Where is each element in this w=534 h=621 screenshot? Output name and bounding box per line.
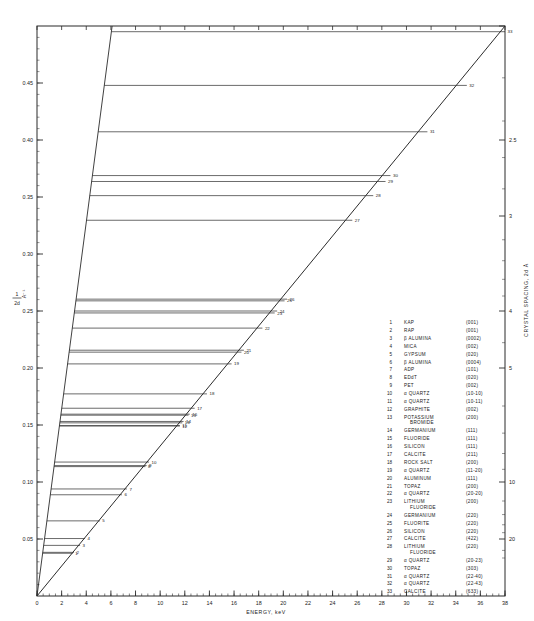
- svg-text:(11-20): (11-20): [466, 468, 483, 473]
- svg-text:2d: 2d: [14, 300, 20, 306]
- svg-text:FLUORIDE: FLUORIDE: [410, 505, 436, 510]
- svg-text:12: 12: [182, 600, 188, 606]
- svg-text:(200): (200): [466, 499, 478, 504]
- svg-text:18: 18: [256, 600, 262, 606]
- svg-text:(200): (200): [466, 415, 478, 420]
- svg-text:36: 36: [477, 600, 483, 606]
- svg-text:α QUARTZ: α QUARTZ: [404, 558, 430, 563]
- svg-text:(211): (211): [466, 452, 478, 457]
- svg-text:(220): (220): [466, 544, 478, 549]
- svg-text:0.40: 0.40: [23, 137, 34, 143]
- svg-text:2.5: 2.5: [509, 137, 517, 143]
- svg-text:α QUARTZ: α QUARTZ: [404, 491, 430, 496]
- svg-text:β ALUMINA: β ALUMINA: [404, 336, 432, 341]
- svg-text:α QUARTZ: α QUARTZ: [404, 391, 430, 396]
- svg-text:30: 30: [403, 600, 409, 606]
- svg-text:GERMANIUM: GERMANIUM: [404, 428, 436, 433]
- svg-text:(22-40): (22-40): [466, 574, 483, 579]
- svg-text:5: 5: [389, 352, 392, 357]
- svg-text:0.35: 0.35: [23, 194, 34, 200]
- svg-text:(20-20): (20-20): [466, 491, 483, 496]
- svg-text:22: 22: [305, 600, 311, 606]
- svg-text:(020): (020): [466, 375, 478, 380]
- svg-text:EDdT: EDdT: [404, 375, 417, 380]
- svg-text:20: 20: [280, 600, 286, 606]
- svg-text:19: 19: [234, 361, 239, 366]
- svg-text:BROMIDE: BROMIDE: [410, 420, 434, 425]
- svg-text:2: 2: [389, 328, 392, 333]
- svg-text:α QUARTZ: α QUARTZ: [404, 581, 430, 586]
- svg-text:ALUMINUM: ALUMINUM: [404, 476, 431, 481]
- svg-text:8: 8: [389, 375, 392, 380]
- svg-text:(111): (111): [466, 476, 478, 481]
- svg-text:(10-10): (10-10): [466, 391, 483, 396]
- svg-text:14: 14: [186, 419, 191, 424]
- svg-text:27: 27: [355, 218, 360, 223]
- svg-text:(111): (111): [466, 444, 478, 449]
- svg-text:20: 20: [387, 476, 393, 481]
- svg-text:25: 25: [387, 521, 393, 526]
- svg-text:(020): (020): [466, 352, 478, 357]
- svg-text:10: 10: [387, 391, 393, 396]
- svg-text:34: 34: [453, 600, 459, 606]
- svg-text:(111): (111): [466, 428, 478, 433]
- svg-text:KAP: KAP: [404, 320, 414, 325]
- svg-text:28: 28: [379, 600, 385, 606]
- svg-text:5: 5: [509, 365, 512, 371]
- svg-text:2: 2: [60, 600, 63, 606]
- svg-text:(422): (422): [466, 536, 478, 541]
- svg-text:7: 7: [389, 367, 392, 372]
- svg-text:GRAPHITE: GRAPHITE: [404, 407, 430, 412]
- svg-text:6: 6: [109, 600, 112, 606]
- crystal-spacing-vs-energy-chart: 02468101214161820222426283032343638 0.05…: [0, 0, 534, 621]
- svg-text:17: 17: [197, 406, 202, 411]
- svg-text:(111): (111): [466, 436, 478, 441]
- svg-text:(10-11): (10-11): [466, 399, 483, 404]
- svg-text:32: 32: [387, 581, 393, 586]
- svg-text:ROCK SALT: ROCK SALT: [404, 460, 433, 465]
- svg-text:α QUARTZ: α QUARTZ: [404, 468, 430, 473]
- svg-text:16: 16: [387, 444, 393, 449]
- svg-text:32: 32: [469, 83, 474, 88]
- svg-text:LITHIUM: LITHIUM: [404, 544, 425, 549]
- svg-text:SILICON: SILICON: [404, 444, 425, 449]
- svg-text:(20-23): (20-23): [466, 558, 483, 563]
- svg-text:ADP: ADP: [404, 367, 415, 372]
- svg-text:20: 20: [509, 536, 515, 542]
- svg-text:GYPSUM: GYPSUM: [404, 352, 426, 357]
- svg-text:1: 1: [389, 320, 392, 325]
- svg-text:(002): (002): [466, 344, 478, 349]
- svg-text:24: 24: [330, 600, 336, 606]
- svg-text:26: 26: [387, 529, 393, 534]
- svg-text:0.45: 0.45: [23, 80, 34, 86]
- svg-text:14: 14: [387, 428, 393, 433]
- svg-text:14: 14: [206, 600, 212, 606]
- svg-text:POTASSIUM: POTASSIUM: [404, 415, 434, 420]
- svg-text:0.25: 0.25: [23, 308, 34, 314]
- svg-text:8: 8: [134, 600, 137, 606]
- svg-text:(633): (633): [466, 589, 478, 594]
- svg-text:19: 19: [387, 468, 393, 473]
- svg-text:16: 16: [231, 600, 237, 606]
- svg-text:24: 24: [387, 513, 393, 518]
- svg-text:32: 32: [428, 600, 434, 606]
- svg-text:16: 16: [192, 412, 197, 417]
- svg-text:CALCITE: CALCITE: [404, 589, 426, 594]
- chart-background: [0, 0, 534, 621]
- svg-text:(220): (220): [466, 513, 478, 518]
- svg-text:10: 10: [152, 460, 157, 465]
- svg-text:13: 13: [387, 415, 393, 420]
- svg-text:22: 22: [387, 491, 393, 496]
- svg-text:4: 4: [85, 600, 88, 606]
- svg-text:27: 27: [387, 536, 393, 541]
- svg-text:RAP: RAP: [404, 328, 415, 333]
- svg-text:CALCITE: CALCITE: [404, 536, 426, 541]
- svg-text:(002): (002): [466, 407, 478, 412]
- svg-text:GERMANIUM: GERMANIUM: [404, 513, 436, 518]
- svg-text:PET: PET: [404, 383, 414, 388]
- svg-text:(0002): (0002): [466, 336, 481, 341]
- svg-text:18: 18: [209, 391, 214, 396]
- svg-text:22: 22: [265, 326, 270, 331]
- svg-text:31: 31: [430, 129, 435, 134]
- svg-text:CRYSTAL SPACING, 2d Å: CRYSTAL SPACING, 2d Å: [523, 263, 529, 337]
